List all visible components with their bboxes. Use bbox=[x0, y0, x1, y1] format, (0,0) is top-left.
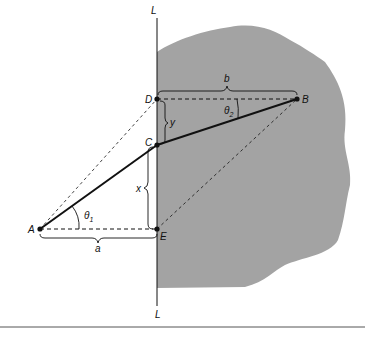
point-A bbox=[37, 226, 42, 231]
label-C: C bbox=[145, 137, 153, 148]
label-a: a bbox=[95, 243, 101, 254]
point-B bbox=[294, 96, 299, 101]
brace-a bbox=[40, 234, 157, 243]
angle-arc-theta1 bbox=[72, 206, 79, 229]
label-y: y bbox=[169, 117, 176, 128]
label-E: E bbox=[160, 231, 167, 242]
label-x: x bbox=[135, 183, 142, 194]
label-D: D bbox=[145, 94, 152, 105]
label-L-top: L bbox=[151, 5, 157, 16]
point-D bbox=[154, 96, 159, 101]
refraction-diagram: L L A E C D B a b x y θ1 θ2 bbox=[0, 0, 365, 339]
brace-x bbox=[144, 147, 153, 229]
dashed-line-AD bbox=[40, 99, 157, 229]
point-E bbox=[154, 226, 159, 231]
label-b: b bbox=[224, 73, 230, 84]
point-C bbox=[154, 142, 159, 147]
label-A: A bbox=[27, 224, 35, 235]
shaded-region bbox=[157, 25, 350, 288]
label-theta1: θ1 bbox=[84, 210, 93, 223]
label-B: B bbox=[302, 94, 309, 105]
label-L-bottom: L bbox=[155, 309, 161, 320]
